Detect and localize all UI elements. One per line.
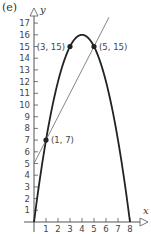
y-tick-label: 17 <box>19 18 30 28</box>
data-point <box>43 138 48 143</box>
y-tick-label: 11 <box>19 88 30 98</box>
data-points: (1, 7)(3, 15)(5, 15) <box>37 42 128 146</box>
y-tick-label: 16 <box>19 30 30 40</box>
y-tick-label: 13 <box>19 65 30 75</box>
y-tick-label: 14 <box>19 53 30 63</box>
x-tick-label: 5 <box>91 224 96 234</box>
point-label: (5, 15) <box>99 42 127 52</box>
x-tick-label: 3 <box>67 224 72 234</box>
data-point <box>67 44 72 49</box>
x-axis-arrow-icon <box>140 218 148 226</box>
x-tick-label: 7 <box>115 224 120 234</box>
x-tick-label: 2 <box>55 224 60 234</box>
x-tick-label: 1 <box>43 224 48 234</box>
point-label: (1, 7) <box>51 135 74 145</box>
x-axis-label: x <box>143 205 149 216</box>
y-tick-label: 7 <box>25 135 30 145</box>
point-label: (3, 15) <box>37 42 65 52</box>
data-point <box>91 44 96 49</box>
y-tick-label: 6 <box>25 147 30 157</box>
x-tick-label: 8 <box>127 224 132 234</box>
y-tick-label: 4 <box>25 170 30 180</box>
y-tick-label: 2 <box>25 194 30 204</box>
y-tick-label: 8 <box>25 123 30 133</box>
y-tick-label: 9 <box>25 112 30 122</box>
y-axis-label: y <box>39 4 46 15</box>
y-tick-label: 5 <box>25 159 30 169</box>
y-tick-label: 10 <box>19 100 30 110</box>
y-tick-label: 3 <box>25 182 30 192</box>
x-tick-label: 6 <box>103 224 108 234</box>
y-tick-label: 1 <box>25 205 30 215</box>
parabola-curve <box>34 35 130 222</box>
y-tick-label: 12 <box>19 77 30 87</box>
y-axis-arrow-icon <box>30 8 38 16</box>
axes: xy <box>24 4 149 232</box>
x-tick-label: 4 <box>79 224 84 234</box>
chart: xy 123456781234567891011121314151617 (1,… <box>0 0 151 234</box>
y-tick-label: 15 <box>19 42 30 52</box>
